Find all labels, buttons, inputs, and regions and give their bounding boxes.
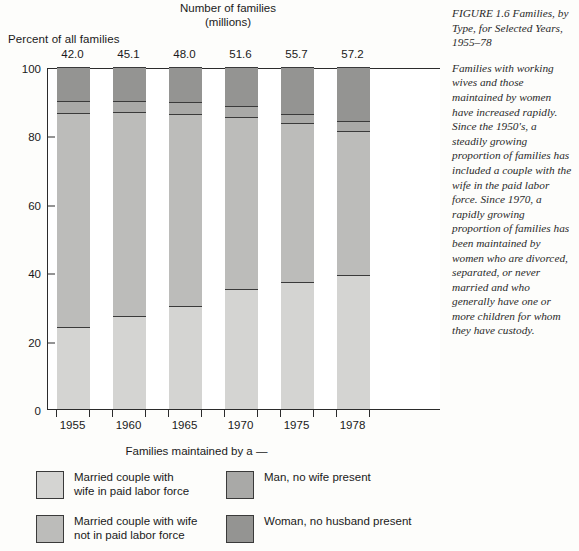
- figure-caption-heading: FIGURE 1.6 Families, by Type, for Select…: [452, 6, 574, 50]
- y-tick-mark: [48, 274, 55, 275]
- figure-page: Percent of all families Number of famili…: [0, 0, 579, 551]
- y-tick-mark: [48, 342, 55, 343]
- legend-item-woman-no-husband-present: Woman, no husband present: [226, 514, 411, 543]
- bar-1960: [113, 69, 146, 409]
- y-axis-title: Percent of all families: [8, 33, 120, 45]
- bar-segment: [113, 112, 146, 316]
- x-tick-label: 1970: [213, 419, 269, 431]
- bar-segment: [169, 67, 202, 102]
- legend-swatch-married-wife-not-in-labor-force: [36, 515, 64, 543]
- y-tick-label: 80: [15, 131, 41, 143]
- bar-segment: [281, 114, 314, 124]
- bar-segment: [57, 113, 90, 327]
- bar-segment: [57, 101, 90, 113]
- y-tick-label: 40: [15, 268, 41, 280]
- y-tick-label: 20: [15, 337, 41, 349]
- bar-segment: [225, 67, 258, 106]
- bar-segment: [113, 101, 146, 112]
- bar-segment: [57, 67, 90, 101]
- x-tick-label: 1978: [325, 419, 381, 431]
- x-tick-mark: [201, 410, 202, 417]
- legend-title: Families maintained by a —: [0, 445, 393, 457]
- legend-label: Married couple with wife in paid labor f…: [74, 470, 189, 498]
- bar-segment: [169, 102, 202, 113]
- page-footer-artifact: [6, 543, 426, 550]
- bar-1965: [169, 69, 202, 409]
- x-tick-label: 1975: [269, 419, 325, 431]
- plot-area: 020406080100: [47, 68, 440, 410]
- bar-segment: [281, 282, 314, 409]
- x-tick-mark: [89, 410, 90, 417]
- x-tick-mark: [112, 410, 113, 417]
- x-tick-mark: [56, 410, 57, 417]
- bar-segment: [337, 121, 370, 131]
- legend-item-man-no-wife-present: Man, no wife present: [226, 470, 371, 499]
- figure-caption-body: Families with working wives and those ma…: [452, 61, 574, 338]
- bar-segment: [225, 106, 258, 116]
- bar-1970: [225, 69, 258, 409]
- y-tick-mark: [48, 205, 55, 206]
- bar-value-label: 51.6: [213, 48, 269, 60]
- bar-segment: [57, 327, 90, 409]
- x-tick-mark: [224, 410, 225, 417]
- x-tick-mark: [336, 410, 337, 417]
- legend-label: Married couple with wife not in paid lab…: [74, 514, 197, 542]
- x-axis-ticks: [47, 410, 440, 417]
- bar-value-label: 57.2: [325, 48, 381, 60]
- legend-swatch-woman-no-husband-present: [226, 515, 254, 543]
- top-axis-title: Number of families (millions): [168, 2, 288, 29]
- figure-caption: FIGURE 1.6 Families, by Type, for Select…: [452, 6, 574, 338]
- legend-swatch-man-no-wife-present: [226, 471, 254, 499]
- bar-segment: [337, 67, 370, 121]
- bar-1955: [57, 69, 90, 409]
- legend-label: Woman, no husband present: [264, 514, 411, 528]
- x-tick-mark: [313, 410, 314, 417]
- bar-segment: [113, 316, 146, 409]
- chart-block: Percent of all families Number of famili…: [0, 0, 440, 551]
- x-tick-mark: [369, 410, 370, 417]
- x-axis-labels: 195519601965197019751978: [47, 419, 440, 435]
- bar-segment: [281, 67, 314, 114]
- bar-segment: [225, 289, 258, 409]
- bar-segment: [225, 117, 258, 289]
- y-tick-label: 60: [15, 200, 41, 212]
- legend-swatch-married-wife-in-labor-force: [36, 471, 64, 499]
- bar-value-labels: 42.045.148.051.655.757.2: [47, 48, 440, 64]
- x-tick-mark: [257, 410, 258, 417]
- legend-label: Man, no wife present: [264, 470, 371, 484]
- bar-value-label: 48.0: [157, 48, 213, 60]
- bar-segment: [113, 67, 146, 101]
- bar-1975: [281, 69, 314, 409]
- y-tick-mark: [48, 137, 55, 138]
- bar-segment: [169, 306, 202, 409]
- bar-value-label: 55.7: [269, 48, 325, 60]
- bar-segment: [337, 275, 370, 409]
- legend-item-married-wife-in-labor-force: Married couple with wife in paid labor f…: [36, 470, 189, 499]
- y-tick-label: 0: [15, 405, 41, 417]
- x-tick-mark: [168, 410, 169, 417]
- x-tick-mark: [145, 410, 146, 417]
- x-tick-mark: [280, 410, 281, 417]
- legend-item-married-wife-not-in-labor-force: Married couple with wife not in paid lab…: [36, 514, 197, 543]
- x-tick-label: 1960: [101, 419, 157, 431]
- y-tick-label: 100: [15, 63, 41, 75]
- bar-segment: [337, 131, 370, 275]
- bar-segment: [281, 123, 314, 282]
- bar-value-label: 45.1: [101, 48, 157, 60]
- bar-value-label: 42.0: [45, 48, 101, 60]
- bar-segment: [169, 114, 202, 306]
- bar-1978: [337, 69, 370, 409]
- x-tick-label: 1965: [157, 419, 213, 431]
- x-tick-label: 1955: [45, 419, 101, 431]
